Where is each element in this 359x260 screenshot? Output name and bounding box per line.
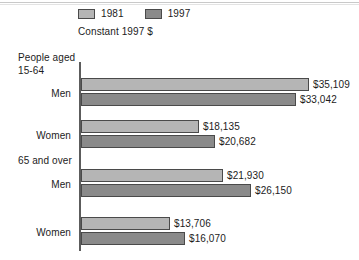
legend-label-1981: 1981 [101, 9, 124, 19]
bar-1981-women-65-and-over [81, 217, 170, 230]
bar-chart-figure: 1981 1997 Constant 1997 $ People aged 15… [0, 0, 359, 260]
group-heading-65-and-over: 65 and over [18, 155, 72, 166]
bar-value-1981-women-15-64: $18,135 [203, 121, 240, 132]
chart-subtitle: Constant 1997 $ [78, 26, 153, 37]
group-heading-15-64-line1: People aged [18, 52, 75, 63]
bar-1997-men-65-and-over [81, 184, 251, 197]
group-heading-15-64-line2: 15-64 [18, 65, 44, 76]
chart-legend: 1981 1997 [78, 9, 190, 19]
legend-item-1981: 1981 [78, 9, 124, 19]
legend-swatch-1997 [145, 9, 162, 19]
bar-value-1997-men-65-and-over: $26,150 [255, 185, 292, 196]
legend-item-1997: 1997 [145, 9, 191, 19]
bar-value-1981-men-65-and-over: $21,930 [227, 170, 264, 181]
category-label-women-15-64: Women [0, 130, 71, 141]
legend-swatch-1981 [78, 9, 95, 19]
bar-value-1981-women-65-and-over: $13,706 [174, 218, 211, 229]
category-label-men-65-and-over: Men [0, 179, 71, 190]
bar-1997-men-15-64 [81, 93, 296, 106]
category-label-women-65-and-over: Women [0, 227, 71, 238]
bar-1981-men-15-64 [81, 78, 309, 91]
top-border-rule-secondary [0, 4, 359, 5]
bar-value-1981-men-15-64: $35,109 [313, 79, 350, 90]
bar-value-1997-men-15-64: $33,042 [300, 94, 337, 105]
top-border-rule [0, 2, 359, 3]
category-label-men-15-64: Men [0, 88, 71, 99]
bar-1997-women-15-64 [81, 135, 215, 148]
legend-label-1997: 1997 [168, 9, 191, 19]
bar-value-1997-women-15-64: $20,682 [219, 136, 256, 147]
bar-1981-men-65-and-over [81, 169, 223, 182]
bar-1997-women-65-and-over [81, 232, 185, 245]
bar-1981-women-15-64 [81, 120, 199, 133]
bar-value-1997-women-65-and-over: $16,070 [189, 233, 226, 244]
